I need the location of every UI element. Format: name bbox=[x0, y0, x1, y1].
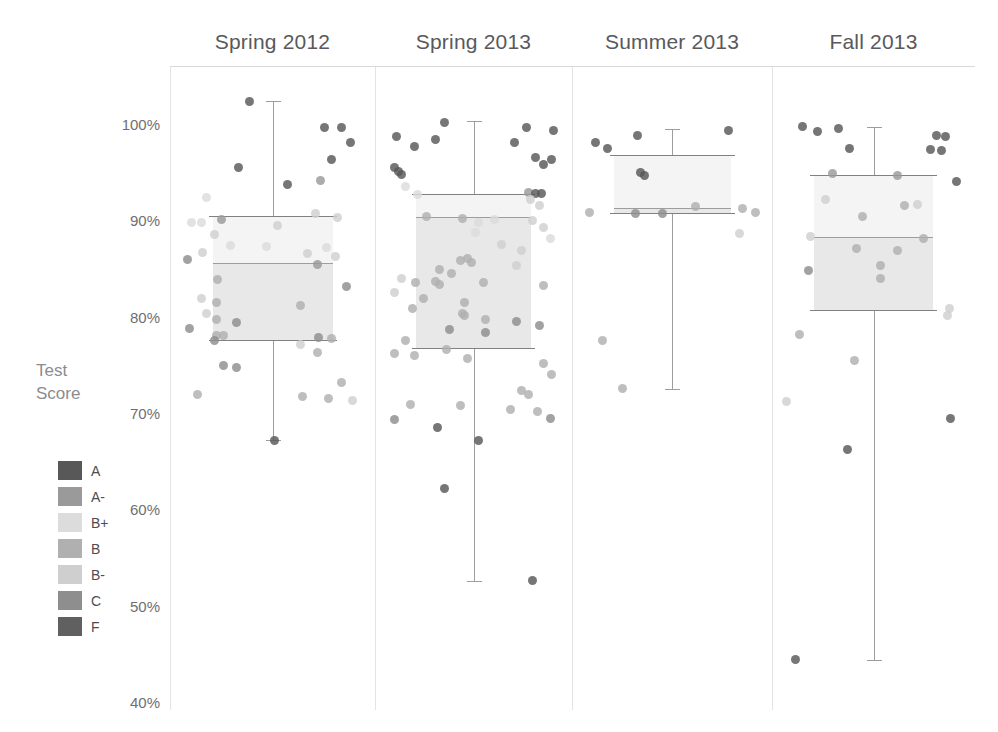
legend-item-label: C bbox=[91, 593, 101, 609]
data-point bbox=[320, 123, 329, 132]
data-point bbox=[735, 229, 744, 238]
data-point bbox=[528, 216, 537, 225]
data-point bbox=[535, 321, 544, 330]
legend-item-b[interactable]: B- bbox=[58, 562, 153, 588]
data-point bbox=[337, 378, 346, 387]
data-point bbox=[337, 123, 346, 132]
data-point bbox=[539, 281, 548, 290]
legend-item-f[interactable]: F bbox=[58, 614, 153, 640]
y-axis-tick-label: 90% bbox=[100, 212, 160, 229]
data-point bbox=[327, 334, 336, 343]
data-point bbox=[474, 218, 483, 227]
legend-item-a[interactable]: A bbox=[58, 458, 153, 484]
data-point bbox=[852, 244, 861, 253]
data-point bbox=[390, 349, 399, 358]
data-point bbox=[419, 294, 428, 303]
data-point bbox=[946, 414, 955, 423]
data-point bbox=[342, 282, 351, 291]
legend-item-label: F bbox=[91, 619, 100, 635]
data-point bbox=[546, 414, 555, 423]
legend-item-a[interactable]: A- bbox=[58, 484, 153, 510]
data-point bbox=[445, 325, 454, 334]
data-point bbox=[348, 396, 357, 405]
legend-swatch-icon bbox=[58, 591, 82, 610]
data-point bbox=[751, 208, 760, 217]
data-point bbox=[198, 248, 207, 257]
y-axis-tick-label: 80% bbox=[100, 309, 160, 326]
chart-canvas: 100%90%80%70%60%50%40% Spring 2012Spring… bbox=[0, 0, 998, 732]
hinge-line-q1 bbox=[610, 213, 735, 214]
data-point bbox=[640, 171, 649, 180]
legend-item-label: A bbox=[91, 463, 100, 479]
data-point bbox=[273, 221, 282, 230]
data-point bbox=[479, 278, 488, 287]
data-point bbox=[893, 246, 902, 255]
data-point bbox=[296, 340, 305, 349]
data-point bbox=[232, 318, 241, 327]
data-point bbox=[539, 359, 548, 368]
data-point bbox=[397, 274, 406, 283]
data-point bbox=[397, 170, 406, 179]
data-point bbox=[298, 392, 307, 401]
data-point bbox=[245, 97, 254, 106]
data-point bbox=[440, 484, 449, 493]
legend-item-label: B- bbox=[91, 567, 105, 583]
data-point bbox=[193, 390, 202, 399]
data-point bbox=[442, 345, 451, 354]
legend-item-b[interactable]: B bbox=[58, 536, 153, 562]
data-point bbox=[283, 180, 292, 189]
whisker-lower bbox=[874, 310, 875, 660]
data-point bbox=[413, 190, 422, 199]
data-point bbox=[782, 397, 791, 406]
data-point bbox=[217, 215, 226, 224]
data-point bbox=[422, 212, 431, 221]
data-point bbox=[463, 354, 472, 363]
data-point bbox=[460, 298, 469, 307]
box-upper-quartile bbox=[416, 194, 531, 217]
data-point bbox=[435, 265, 444, 274]
data-point bbox=[210, 336, 219, 345]
data-point bbox=[490, 215, 499, 224]
data-point bbox=[212, 298, 221, 307]
data-point bbox=[858, 212, 867, 221]
data-point bbox=[183, 255, 192, 264]
data-point bbox=[517, 246, 526, 255]
data-point bbox=[633, 131, 642, 140]
data-point bbox=[481, 315, 490, 324]
legend-item-c[interactable]: C bbox=[58, 588, 153, 614]
hinge-line-q3 bbox=[412, 194, 535, 195]
legend-item-b[interactable]: B+ bbox=[58, 510, 153, 536]
data-point bbox=[410, 142, 419, 151]
whisker-upper bbox=[273, 101, 274, 216]
box-upper-quartile bbox=[614, 155, 731, 208]
data-point bbox=[390, 288, 399, 297]
data-point bbox=[440, 118, 449, 127]
legend-title-line-2: Score bbox=[36, 383, 153, 406]
data-point bbox=[322, 243, 331, 252]
hinge-line-q3 bbox=[610, 155, 735, 156]
column-header-spring-2013: Spring 2013 bbox=[375, 30, 572, 54]
column-header-fall-2013: Fall 2013 bbox=[772, 30, 975, 54]
data-point bbox=[941, 132, 950, 141]
data-point bbox=[533, 407, 542, 416]
legend-swatch-icon bbox=[58, 461, 82, 480]
legend-item-label: A- bbox=[91, 489, 105, 505]
plot-panel-summer-2013 bbox=[572, 67, 772, 710]
data-point bbox=[333, 213, 342, 222]
plot-panel-fall-2013 bbox=[772, 67, 975, 710]
data-point bbox=[537, 189, 546, 198]
data-point bbox=[531, 153, 540, 162]
data-point bbox=[603, 144, 612, 153]
whisker-cap-upper bbox=[467, 121, 482, 122]
data-point bbox=[232, 363, 241, 372]
data-point bbox=[791, 655, 800, 664]
data-point bbox=[392, 132, 401, 141]
legend-item-label: B bbox=[91, 541, 100, 557]
data-point bbox=[618, 384, 627, 393]
data-point bbox=[212, 315, 221, 324]
whisker-cap-upper bbox=[665, 129, 680, 130]
legend-title: Test Score bbox=[36, 360, 153, 406]
data-point bbox=[401, 182, 410, 191]
data-point bbox=[185, 324, 194, 333]
data-point bbox=[202, 309, 211, 318]
